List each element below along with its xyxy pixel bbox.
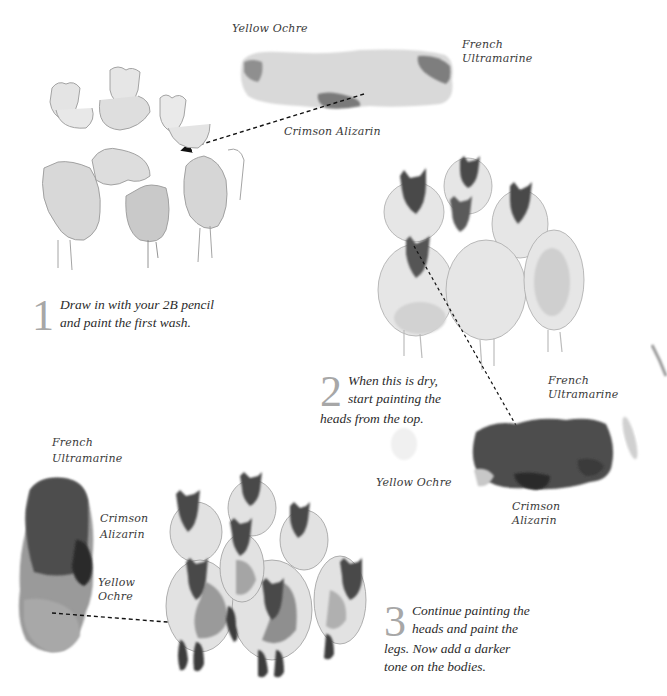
step-2-line-1: When this is dry,	[320, 372, 470, 390]
palette-swatch-top	[241, 50, 453, 109]
step-1-line-1: Draw in with your 2B pencil	[32, 296, 252, 314]
palette-swatch-left	[19, 478, 93, 652]
step-3-line-1: Continue painting the	[384, 602, 564, 620]
step-1-line-2: and paint the first wash.	[32, 314, 252, 332]
step-2-number: 2	[320, 374, 342, 410]
palette-swatch-right	[473, 419, 613, 490]
sheep-group-step2	[378, 156, 584, 370]
step-3-instruction: 3 Continue painting the heads and paint …	[384, 602, 564, 676]
step-2-line-2: start painting the	[320, 390, 470, 408]
label-yellow-ochre-top: Yellow Ochre	[232, 22, 308, 36]
label-crimson-left-1: Crimson	[100, 512, 148, 526]
label-french-ultramarine-top-2: Ultramarine	[462, 52, 533, 66]
label-french-ultramarine-right-2: Ultramarine	[548, 388, 619, 402]
paint-stroke	[652, 345, 666, 376]
step-1-instruction: 1 Draw in with your 2B pencil and paint …	[32, 296, 252, 334]
step-1-number: 1	[32, 298, 54, 334]
label-french-ultramarine-left-1: French	[52, 436, 93, 450]
label-french-ultramarine-top-1: French	[462, 38, 503, 52]
label-crimson-right-2: Alizarin	[512, 514, 557, 528]
step-2-line-3: heads from the top.	[320, 410, 470, 428]
paint-drop	[391, 428, 417, 460]
step-2-instruction: 2 When this is dry, start painting the h…	[320, 372, 470, 428]
label-crimson-left-2: Alizarin	[100, 528, 145, 542]
label-french-ultramarine-left-2: Ultramarine	[52, 452, 123, 466]
paint-drop	[619, 415, 640, 460]
label-yellow-left-2: Ochre	[98, 590, 133, 604]
label-crimson-alizarin-top: Crimson Alizarin	[284, 125, 381, 139]
step-3-number: 3	[384, 604, 406, 640]
label-crimson-right-1: Crimson	[512, 500, 560, 514]
sheep-group-step3	[166, 472, 366, 677]
label-french-ultramarine-right-1: French	[548, 374, 589, 388]
step-3-line-2: heads and paint the	[384, 620, 564, 638]
label-yellow-ochre-right: Yellow Ochre	[376, 476, 452, 490]
sheep-group-step1	[43, 67, 245, 270]
step-3-line-3: legs. Now add a darker	[384, 640, 564, 658]
step-3-line-4: tone on the bodies.	[384, 658, 564, 676]
label-yellow-left-1: Yellow	[98, 576, 135, 590]
